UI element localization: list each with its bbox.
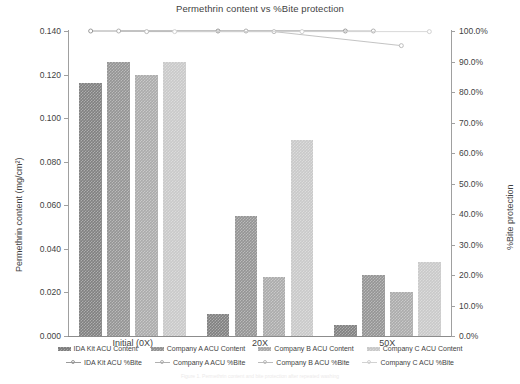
secondary-y-tick xyxy=(451,153,455,154)
primary-y-tick xyxy=(64,31,68,32)
legend-swatch-icon xyxy=(367,347,380,351)
secondary-y-tick-label: 80.0% xyxy=(459,87,515,97)
legend-bar-series: IDA Kit ACU ContentCompany A ACU Content… xyxy=(0,345,520,352)
figure-caption: Figure 1. Permethrin content and bite pr… xyxy=(0,373,520,379)
primary-y-tick-label: 0.000 xyxy=(1,331,61,341)
legend-label: Company B ACU %Bite xyxy=(276,359,349,366)
secondary-y-tick-label: 0.0% xyxy=(459,331,515,341)
secondary-y-tick xyxy=(451,306,455,307)
secondary-y-tick-label: 20.0% xyxy=(459,270,515,280)
legend-line-marker-icon xyxy=(362,360,377,365)
secondary-y-tick xyxy=(451,275,455,276)
secondary-y-tick-label: 90.0% xyxy=(459,57,515,67)
secondary-y-tick xyxy=(451,92,455,93)
legend-line-marker-icon xyxy=(258,360,273,365)
bar-50x-s1 xyxy=(362,275,385,336)
plot-area xyxy=(69,31,451,336)
primary-y-tick-label: 0.140 xyxy=(1,26,61,36)
bar-20x-s0 xyxy=(207,314,230,336)
primary-y-tick xyxy=(64,118,68,119)
legend-line-marker-icon xyxy=(66,360,81,365)
secondary-y-tick xyxy=(451,245,455,246)
secondary-y-tick xyxy=(451,31,455,32)
bar-initial-0x--s1 xyxy=(107,62,130,337)
secondary-y-tick xyxy=(451,214,455,215)
bar-50x-s2 xyxy=(390,292,413,336)
primary-y-axis-title: Permethrin content (mg/cm²) xyxy=(14,157,24,272)
legend-swatch-icon xyxy=(151,347,164,351)
primary-y-tick-label: 0.120 xyxy=(1,70,61,80)
legend-swatch-icon xyxy=(258,347,271,351)
secondary-y-tick-label: 100.0% xyxy=(459,26,515,36)
x-axis-line xyxy=(68,336,452,337)
primary-y-tick-label: 0.060 xyxy=(1,200,61,210)
secondary-y-tick xyxy=(451,123,455,124)
primary-y-tick xyxy=(64,292,68,293)
legend-item-line-2[interactable]: Company B ACU %Bite xyxy=(258,359,349,366)
primary-y-tick xyxy=(64,205,68,206)
legend-label: Company A ACU %Bite xyxy=(173,359,245,366)
legend-label: IDA Kit ACU %Bite xyxy=(84,359,142,366)
bar-20x-s1 xyxy=(235,216,258,336)
legend-item-line-3[interactable]: Company C ACU %Bite xyxy=(362,359,454,366)
primary-y-tick-label: 0.040 xyxy=(1,244,61,254)
legend-item-bar-1[interactable]: Company A ACU Content xyxy=(151,345,246,352)
chart-container: Permethrin content vs %Bite protection 0… xyxy=(0,0,520,384)
secondary-y-tick-label: 10.0% xyxy=(459,301,515,311)
legend-label: Company C ACU %Bite xyxy=(380,359,454,366)
legend-label: Company C ACU Content xyxy=(383,345,463,352)
primary-y-tick-label: 0.100 xyxy=(1,113,61,123)
bar-20x-s2 xyxy=(263,277,286,336)
legend-item-line-1[interactable]: Company A ACU %Bite xyxy=(155,359,245,366)
chart-title: Permethrin content vs %Bite protection xyxy=(0,3,520,14)
legend-label: IDA Kit ACU Content xyxy=(74,345,138,352)
bar-initial-0x--s3 xyxy=(163,62,186,337)
primary-y-tick xyxy=(64,249,68,250)
secondary-y-tick xyxy=(451,62,455,63)
legend-item-line-0[interactable]: IDA Kit ACU %Bite xyxy=(66,359,142,366)
bar-50x-s0 xyxy=(334,325,357,336)
legend-line-marker-icon xyxy=(155,360,170,365)
bar-initial-0x--s2 xyxy=(135,75,158,336)
primary-y-tick xyxy=(64,162,68,163)
legend-swatch-icon xyxy=(58,347,71,351)
primary-y-tick xyxy=(64,75,68,76)
legend-item-bar-0[interactable]: IDA Kit ACU Content xyxy=(58,345,138,352)
primary-y-tick-label: 0.080 xyxy=(1,157,61,167)
bar-20x-s3 xyxy=(291,140,314,336)
legend-label: Company B ACU Content xyxy=(274,345,353,352)
bar-50x-s3 xyxy=(418,262,441,336)
legend-item-bar-3[interactable]: Company C ACU Content xyxy=(367,345,463,352)
secondary-y-tick-label: 60.0% xyxy=(459,148,515,158)
bar-initial-0x--s0 xyxy=(79,83,102,336)
legend-item-bar-2[interactable]: Company B ACU Content xyxy=(258,345,353,352)
secondary-y-axis-title: %Bite protection xyxy=(505,184,515,250)
secondary-y-tick-label: 70.0% xyxy=(459,118,515,128)
primary-y-tick xyxy=(64,336,68,337)
secondary-y-tick xyxy=(451,336,455,337)
primary-y-tick-label: 0.020 xyxy=(1,287,61,297)
legend-label: Company A ACU Content xyxy=(167,345,246,352)
legend-line-series: IDA Kit ACU %BiteCompany A ACU %BiteComp… xyxy=(0,359,520,366)
secondary-y-tick xyxy=(451,184,455,185)
